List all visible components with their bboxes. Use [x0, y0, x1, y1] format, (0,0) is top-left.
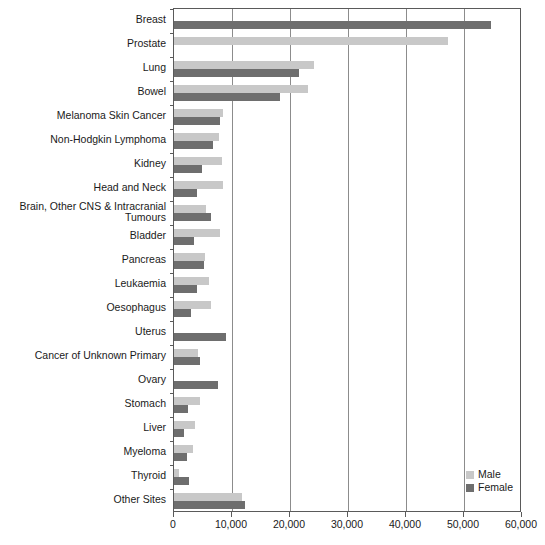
y-axis-tick: [170, 249, 174, 250]
x-axis-label: 10,000: [215, 518, 247, 530]
category-label: Stomach: [0, 398, 166, 410]
bar-male: [174, 277, 209, 285]
bar-group: [174, 105, 520, 129]
bar-female: [174, 237, 194, 245]
bar-female: [174, 477, 189, 485]
y-axis-tick: [170, 129, 174, 130]
x-axis-label: 30,000: [331, 518, 363, 530]
y-axis-tick: [170, 153, 174, 154]
bar-group: [174, 417, 520, 441]
legend-item-female[interactable]: Female: [466, 481, 518, 494]
bar-male: [174, 253, 205, 261]
category-label: Kidney: [0, 158, 166, 170]
bar-male: [174, 445, 193, 453]
bar-female: [174, 141, 213, 149]
legend-swatch-icon: [466, 484, 474, 492]
bar-group: [174, 393, 520, 417]
bar-female: [174, 93, 280, 101]
y-axis-tick: [170, 105, 174, 106]
legend-item-male[interactable]: Male: [466, 468, 518, 481]
category-label: Myeloma: [0, 446, 166, 458]
category-label: Brain, Other CNS & Intracranial Tumours: [0, 201, 166, 224]
category-label: Other Sites: [0, 494, 166, 506]
bar-group: [174, 225, 520, 249]
bar-male: [174, 469, 179, 477]
bar-female: [174, 405, 188, 413]
category-label: Non-Hodgkin Lymphoma: [0, 134, 166, 146]
x-axis-tick: [521, 512, 522, 517]
category-label: Thyroid: [0, 470, 166, 482]
bar-female: [174, 501, 245, 509]
bar-female: [174, 309, 191, 317]
bar-female: [174, 285, 197, 293]
y-axis-tick: [170, 393, 174, 394]
bar-male: [174, 85, 308, 93]
y-axis-tick: [170, 489, 174, 490]
y-axis-tick: [170, 417, 174, 418]
legend-label: Male: [478, 469, 501, 480]
category-label: Lung: [0, 62, 166, 74]
category-label: Ovary: [0, 374, 166, 386]
category-label: Bladder: [0, 230, 166, 242]
bar-group: [174, 273, 520, 297]
bar-female: [174, 165, 202, 173]
bar-female: [174, 189, 197, 197]
bar-group: [174, 81, 520, 105]
bar-group: [174, 201, 520, 225]
category-label-column: BreastProstateLungBowelMelanoma Skin Can…: [0, 8, 170, 512]
y-axis-tick: [170, 273, 174, 274]
bar-female: [174, 453, 187, 461]
bar-male: [174, 109, 223, 117]
category-label: Liver: [0, 422, 166, 434]
y-axis-tick: [170, 441, 174, 442]
bar-male: [174, 229, 220, 237]
y-axis-tick: [170, 33, 174, 34]
bar-male: [174, 61, 314, 69]
bar-female: [174, 333, 226, 341]
bar-male: [174, 37, 448, 45]
category-label: Melanoma Skin Cancer: [0, 110, 166, 122]
category-label: Leukaemia: [0, 278, 166, 290]
bar-female: [174, 261, 204, 269]
x-axis-label: 50,000: [447, 518, 479, 530]
y-axis-tick: [170, 465, 174, 466]
bar-group: [174, 297, 520, 321]
bar-male: [174, 421, 195, 429]
y-axis-tick: [170, 81, 174, 82]
x-axis: 010,00020,00030,00040,00050,00060,000: [173, 512, 521, 542]
x-axis-tick: [405, 512, 406, 517]
category-label: Uterus: [0, 326, 166, 338]
bar-group: [174, 177, 520, 201]
bar-group: [174, 33, 520, 57]
x-axis-tick: [231, 512, 232, 517]
legend-swatch-icon: [466, 471, 474, 479]
bar-male: [174, 397, 200, 405]
x-axis-tick: [173, 512, 174, 517]
bar-male: [174, 493, 242, 501]
y-axis-tick: [170, 57, 174, 58]
bar-group: [174, 9, 520, 33]
chart-legend: MaleFemale: [466, 468, 518, 494]
bar-group: [174, 369, 520, 393]
category-label: Prostate: [0, 38, 166, 50]
bar-male: [174, 205, 206, 213]
x-axis-tick: [289, 512, 290, 517]
bar-male: [174, 301, 211, 309]
bar-female: [174, 21, 491, 29]
x-axis-label: 40,000: [389, 518, 421, 530]
y-axis-tick: [170, 321, 174, 322]
bar-male: [174, 157, 222, 165]
category-label: Cancer of Unknown Primary: [0, 350, 166, 362]
bar-group: [174, 441, 520, 465]
y-axis-tick: [170, 369, 174, 370]
bar-male: [174, 133, 219, 141]
x-axis-label: 0: [170, 518, 176, 530]
x-axis-label: 20,000: [273, 518, 305, 530]
bar-group: [174, 153, 520, 177]
y-axis-tick: [170, 297, 174, 298]
legend-label: Female: [478, 482, 513, 493]
y-axis-tick: [170, 9, 174, 10]
bar-group: [174, 129, 520, 153]
category-label: Oesophagus: [0, 302, 166, 314]
category-label: Pancreas: [0, 254, 166, 266]
